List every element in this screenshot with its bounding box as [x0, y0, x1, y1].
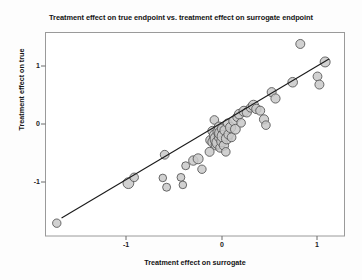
- data-point: [163, 183, 171, 191]
- data-point: [179, 181, 187, 189]
- data-point: [262, 121, 271, 130]
- x-axis-ticks: [126, 236, 317, 240]
- data-point: [198, 165, 206, 173]
- data-point: [177, 173, 185, 181]
- data-point: [182, 162, 190, 170]
- plot-frame: [46, 33, 345, 237]
- data-point: [237, 119, 246, 128]
- scatter-plot-canvas: [0, 0, 362, 280]
- data-point: [159, 174, 167, 182]
- data-point: [222, 148, 231, 157]
- chart-figure: Treatment effect on true endpoint vs. tr…: [0, 0, 362, 280]
- data-point: [296, 39, 305, 48]
- data-point: [193, 154, 203, 164]
- data-point: [313, 72, 322, 81]
- data-point: [53, 219, 61, 227]
- data-point: [256, 106, 265, 115]
- data-point: [271, 94, 280, 103]
- data-point: [315, 80, 324, 89]
- y-axis-ticks: [41, 66, 46, 182]
